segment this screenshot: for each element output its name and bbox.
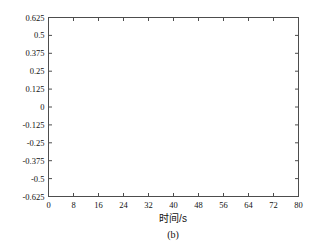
x-tick-label: 56	[219, 200, 228, 210]
oscillation-chart: 08162432404856647280 -0.625-0.5-0.375-0.…	[0, 0, 322, 246]
y-tick-label: -0.625	[23, 192, 45, 202]
figure-panel: 08162432404856647280 -0.625-0.5-0.375-0.…	[0, 0, 322, 246]
x-tick-label: 80	[294, 200, 303, 210]
y-tick-label: 0.25	[30, 66, 45, 76]
y-tick-label: 0	[40, 102, 44, 112]
x-tick-label: 16	[94, 200, 103, 210]
y-tick-label: -0.25	[27, 138, 45, 148]
y-tick-label: 0.5	[34, 30, 45, 40]
x-tick-label: 48	[194, 200, 203, 210]
x-tick-label: 64	[244, 200, 253, 210]
y-tick-label: -0.5	[31, 174, 44, 184]
y-tick-label: -0.125	[23, 120, 45, 130]
x-tick-label: 8	[71, 200, 75, 210]
y-tick-label: 0.625	[25, 13, 44, 23]
x-tick-label: 40	[169, 200, 178, 210]
x-tick-label: 72	[269, 200, 278, 210]
y-tick-label: 0.125	[25, 84, 44, 94]
x-tick-label: 32	[144, 200, 153, 210]
x-tick-label: 24	[119, 200, 128, 210]
y-tick-label: -0.375	[23, 156, 45, 166]
y-tick-label: 0.375	[25, 48, 44, 58]
x-axis-title: 时间/s	[159, 212, 187, 224]
x-tick-label: 0	[46, 200, 50, 210]
figure-caption: (b)	[167, 229, 179, 241]
